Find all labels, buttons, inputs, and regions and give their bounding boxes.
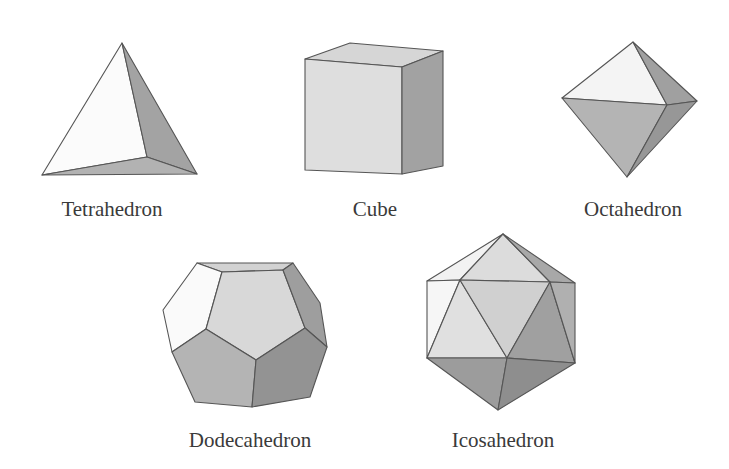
octahedron-shape — [562, 42, 697, 177]
octahedron-label: Octahedron — [584, 199, 682, 220]
icosahedron-label: Icosahedron — [452, 430, 555, 451]
dodecahedron-shape — [163, 263, 327, 407]
cube-label: Cube — [353, 199, 397, 220]
tetrahedron-label: Tetrahedron — [61, 199, 162, 220]
dodecahedron-label: Dodecahedron — [189, 430, 311, 451]
platonic-solids-figure: Tetrahedron Cube Octahedron Dodecahedron… — [0, 0, 729, 469]
cube-shape — [305, 43, 443, 174]
tetrahedron-shape — [42, 43, 197, 175]
icosahedron-shape — [427, 234, 575, 410]
solids-drawing — [0, 0, 729, 469]
